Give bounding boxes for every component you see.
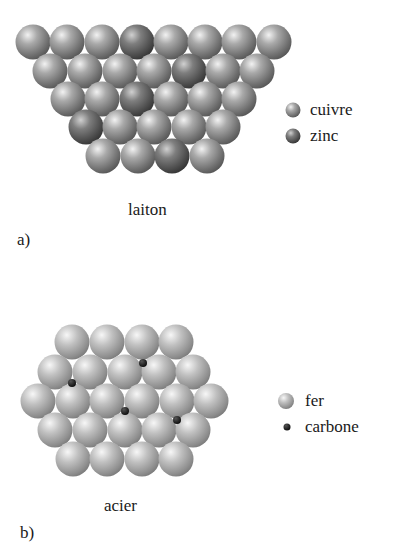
legend-label-carbon: carbone	[305, 418, 359, 435]
iron-atom-icon	[125, 325, 160, 360]
steel-lattice	[21, 325, 229, 477]
carbon-atom-icon	[68, 379, 76, 387]
caption-brass: laiton	[128, 201, 167, 218]
copper-atom-icon	[121, 139, 156, 174]
iron-atom-icon	[90, 325, 125, 360]
legend-label-copper: cuivre	[310, 101, 352, 118]
iron-atom-icon	[194, 384, 229, 419]
caption-steel: acier	[104, 497, 137, 514]
iron-atom-icon	[159, 442, 194, 477]
copper-atom-icon	[190, 139, 225, 174]
iron-atom-icon	[55, 325, 90, 360]
carbon-atom-icon	[284, 424, 291, 431]
brass-lattice	[16, 25, 292, 174]
panel-label-a: a)	[17, 231, 30, 248]
iron-atom-icon	[56, 442, 91, 477]
carbon-atom-icon	[139, 359, 147, 367]
carbon-atom-icon	[173, 416, 181, 424]
carbon-atom-icon	[121, 407, 129, 415]
zinc-atom-icon	[155, 139, 190, 174]
iron-atom-icon	[38, 413, 73, 448]
zinc-atom-icon	[286, 129, 301, 144]
iron-atom-icon	[159, 325, 194, 360]
copper-atom-icon	[286, 103, 301, 118]
iron-atom-icon	[90, 442, 125, 477]
iron-atom-icon	[125, 442, 160, 477]
legend-symbols	[278, 103, 301, 431]
legend-label-zinc: zinc	[310, 127, 338, 144]
panel-label-b: b)	[20, 524, 34, 541]
iron-atom-icon	[278, 393, 294, 409]
legend-label-iron: fer	[305, 392, 324, 409]
copper-atom-icon	[86, 139, 121, 174]
